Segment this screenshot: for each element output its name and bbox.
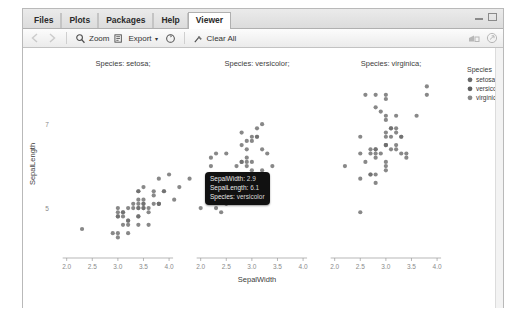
data-point[interactable] [187,177,191,181]
data-point[interactable] [425,93,429,97]
data-point[interactable] [374,156,378,160]
data-point[interactable] [255,126,259,130]
data-point[interactable] [234,164,238,168]
data-point[interactable] [384,97,388,101]
data-point[interactable] [250,160,254,164]
data-point[interactable] [116,206,120,210]
data-point[interactable] [374,147,378,151]
data-point[interactable] [245,147,249,151]
data-point[interactable] [399,151,403,155]
data-point[interactable] [374,151,378,155]
data-point[interactable] [136,189,140,193]
data-point[interactable] [147,223,151,227]
data-point[interactable] [260,122,264,126]
data-point[interactable] [265,151,269,155]
data-point[interactable] [116,231,120,235]
data-point[interactable] [157,177,161,181]
data-point[interactable] [157,202,161,206]
data-point[interactable] [209,156,213,160]
tab-plots[interactable]: Plots [61,13,98,29]
data-point[interactable] [245,160,249,164]
data-point[interactable] [399,135,403,139]
refresh-icon[interactable] [165,33,176,44]
maximize-icon[interactable] [488,13,499,23]
new-window-icon[interactable] [486,32,498,44]
data-point[interactable] [152,193,156,197]
data-point[interactable] [240,143,244,147]
data-point[interactable] [214,151,218,155]
minimize-icon[interactable] [474,13,485,23]
tab-files[interactable]: Files [27,13,61,29]
forward-arrow-icon[interactable] [46,32,58,44]
data-point[interactable] [245,156,249,160]
data-point[interactable] [389,126,393,130]
data-point[interactable] [141,202,145,206]
data-point[interactable] [116,214,120,218]
data-point[interactable] [384,160,388,164]
data-point[interactable] [358,177,362,181]
tab-packages[interactable]: Packages [98,13,153,29]
data-point[interactable] [136,214,140,218]
back-arrow-icon[interactable] [29,32,41,44]
data-point[interactable] [404,151,408,155]
data-point[interactable] [384,164,388,168]
data-point[interactable] [260,147,264,151]
data-point[interactable] [126,223,130,227]
tab-help[interactable]: Help [153,13,187,29]
data-point[interactable] [162,189,166,193]
data-point[interactable] [384,114,388,118]
data-point[interactable] [425,84,429,88]
data-point[interactable] [384,135,388,139]
data-point[interactable] [131,202,135,206]
data-point[interactable] [136,206,140,210]
zoom-button[interactable]: Zoom [75,33,109,44]
data-point[interactable] [172,198,176,202]
data-point[interactable] [374,172,378,176]
data-point[interactable] [167,172,171,176]
data-point[interactable] [379,151,383,155]
data-point[interactable] [343,164,347,168]
data-point[interactable] [121,210,125,214]
data-point[interactable] [368,172,372,176]
data-point[interactable] [394,143,398,147]
data-point[interactable] [250,135,254,139]
data-point[interactable] [384,143,388,147]
data-point[interactable] [363,93,367,97]
data-point[interactable] [152,189,156,193]
data-point[interactable] [240,160,244,164]
data-point[interactable] [219,210,223,214]
data-point[interactable] [374,93,378,97]
legend-label-setosa[interactable]: setosa [476,76,496,83]
publish-icon[interactable] [468,33,480,44]
data-point[interactable] [384,118,388,122]
data-point[interactable] [141,185,145,189]
data-point[interactable] [214,206,218,210]
data-point[interactable] [389,147,393,151]
tab-viewer[interactable]: Viewer [188,12,231,30]
data-point[interactable] [121,214,125,218]
data-point[interactable] [136,223,140,227]
data-point[interactable] [394,130,398,134]
data-point[interactable] [240,130,244,134]
data-point[interactable] [126,206,130,210]
data-point[interactable] [116,210,120,214]
data-point[interactable] [141,206,145,210]
data-point[interactable] [147,206,151,210]
data-point[interactable] [404,156,408,160]
data-point[interactable] [374,105,378,109]
data-point[interactable] [368,151,372,155]
data-point[interactable] [126,231,130,235]
data-point[interactable] [379,109,383,113]
data-point[interactable] [358,151,362,155]
data-point[interactable] [389,135,393,139]
data-point[interactable] [245,139,249,143]
data-point[interactable] [255,135,259,139]
vertical-scrollbar[interactable] [495,48,503,308]
export-button[interactable]: Export ▾ [114,33,157,44]
clear-all-button[interactable]: Clear All [193,33,237,44]
data-point[interactable] [136,198,140,202]
data-point[interactable] [224,151,228,155]
data-point[interactable] [131,206,135,210]
data-point[interactable] [121,223,125,227]
data-point[interactable] [358,135,362,139]
